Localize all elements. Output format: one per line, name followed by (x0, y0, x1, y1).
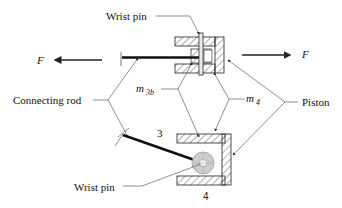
wrist-pin-label-bottom: Wrist pin (74, 181, 115, 193)
slider-crank-diagram: F F Wrist pin Connecting rod m 3b (0, 0, 342, 208)
svg-text:m: m (246, 92, 254, 104)
mass-4-label: m 4 (246, 92, 260, 107)
link-4-label: 4 (203, 191, 209, 202)
svg-text:4: 4 (256, 98, 260, 107)
piston-label: Piston (302, 96, 330, 108)
bottom-assembly: 3 4 Wrist pin (74, 127, 231, 202)
force-label-left: F (36, 54, 44, 66)
svg-text:3b: 3b (145, 88, 154, 97)
top-assembly: F F Wrist pin (36, 10, 309, 75)
wrist-pin-label-top: Wrist pin (106, 10, 147, 22)
mass-3b-label: m 3b (136, 82, 154, 97)
svg-text:m: m (136, 82, 144, 94)
link-3-label: 3 (157, 127, 163, 139)
force-label-right: F (301, 48, 309, 60)
wrist-pin-bottom (192, 152, 214, 174)
connecting-rod-label: Connecting rod (13, 94, 82, 106)
